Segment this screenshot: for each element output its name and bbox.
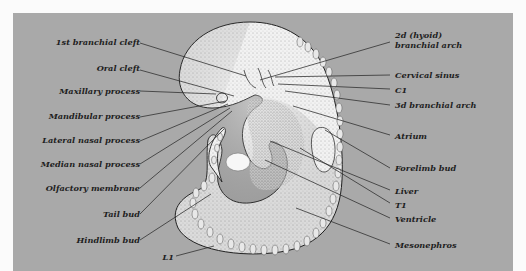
label-lateral-nasal-process: Lateral nasal process — [42, 135, 140, 145]
label-t1: T1 — [395, 200, 407, 210]
label-l1: L1 — [163, 252, 174, 262]
label-maxillary-process: Maxillary process — [59, 86, 140, 96]
label-first-branchial-cleft: 1st branchial cleft — [56, 37, 140, 47]
label-ventricle: Ventricle — [395, 214, 436, 224]
label-oral-cleft: Oral cleft — [97, 63, 140, 73]
label-hindlimb-bud: Hindlimb bud — [77, 235, 140, 245]
label-second-hyoid-branchial-arch-line1: 2d (hyoid) — [395, 30, 442, 40]
label-atrium: Atrium — [395, 131, 427, 141]
label-forelimb-bud: Forelimb bud — [395, 163, 456, 173]
label-c1: C1 — [395, 85, 407, 95]
label-mandibular-process: Mandibular process — [49, 111, 140, 121]
label-mesonephros: Mesonephros — [395, 240, 457, 250]
umbilical-region — [226, 153, 250, 171]
label-cervical-sinus: Cervical sinus — [395, 70, 459, 80]
label-second-hyoid-branchial-arch-line2: branchial arch — [395, 40, 462, 50]
label-third-branchial-arch: 3d branchial arch — [395, 100, 476, 110]
label-median-nasal-process: Median nasal process — [41, 159, 140, 169]
label-liver: Liver — [395, 186, 418, 196]
label-tail-bud: Tail bud — [103, 209, 140, 219]
label-olfactory-membrane: Olfactory membrane — [46, 183, 140, 193]
